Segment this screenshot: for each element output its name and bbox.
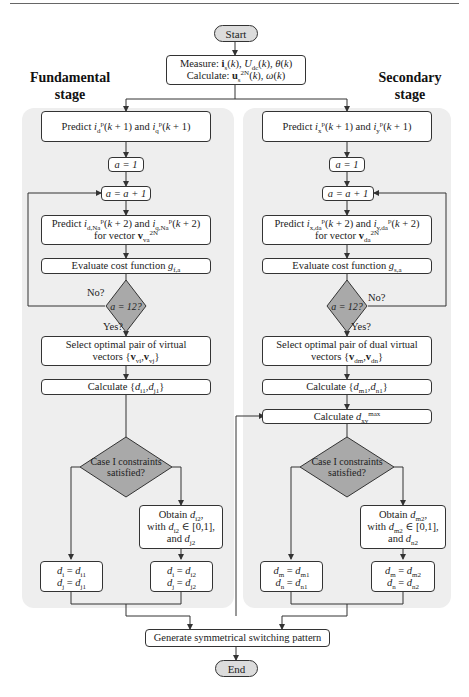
secondary-obtain-line2: with dm2 ∈ [0,1], <box>367 521 438 533</box>
generate-pattern-box: Generate symmetrical switching pattern <box>145 629 330 647</box>
fundamental-init-a-box: a = 1 <box>108 157 144 172</box>
fundamental-calc-text: Calculate {di1,dj1} <box>88 381 164 393</box>
fundamental-result1-box: di = di1 dj = dj1 <box>40 561 103 592</box>
fundamental-predict-k2-box: Predict id,Nap(k + 2) and iq,Nap(k + 2) … <box>41 215 211 245</box>
secondary-predict-k2-box: Predict ix,dap(k + 2) and iy,dap(k + 2) … <box>262 215 432 245</box>
fundamental-predict-k2-line2: for vector vva2N <box>94 230 158 242</box>
generate-pattern-text: Generate symmetrical switching pattern <box>154 632 322 644</box>
secondary-no-label: No? <box>368 292 386 303</box>
fundamental-increment-text: a = a + 1 <box>106 188 146 200</box>
secondary-evaluate-text: Evaluate cost function gs,a <box>292 260 401 272</box>
fundamental-loop-decision-label: a = 12? <box>110 301 142 312</box>
fundamental-loop-decision-text: a = 12? <box>106 299 146 313</box>
fundamental-no-label: No? <box>87 287 105 298</box>
fundamental-obtain-line1: Obtain di2, <box>159 509 204 521</box>
secondary-select-line2: vectors {vdm,vdn} <box>311 351 383 363</box>
fundamental-calc-box: Calculate {di1,dj1} <box>41 379 211 395</box>
fundamental-result1-line1: di = di1 <box>57 565 86 577</box>
fundamental-case-decision-text: Case I constraints satisfied? <box>84 456 168 478</box>
secondary-yes-label: Yes? <box>351 321 371 332</box>
secondary-increment-text: a = a + 1 <box>328 188 368 200</box>
secondary-predict-k1-text: Predict ixp(k + 1) and iyp(k + 1) <box>283 121 412 133</box>
secondary-result2-line1: dm = dm2 <box>385 565 421 577</box>
secondary-result1-line2: dn = dn1 <box>275 577 307 589</box>
secondary-case-decision-text: Case I constraints satisfied? <box>305 456 389 478</box>
secondary-select-box: Select optimal pair of dual virtual vect… <box>262 336 432 366</box>
fundamental-evaluate-text: Evaluate cost function gf,a <box>72 260 181 272</box>
secondary-result2-box: dm = dm2 dn = dn2 <box>371 561 435 592</box>
fundamental-select-line1: Select optimal pair of virtual <box>66 339 187 351</box>
secondary-obtain-line3: and dn2 <box>388 533 418 545</box>
secondary-result1-line1: dm = dm1 <box>273 565 309 577</box>
fundamental-case-line2: satisfied? <box>107 467 145 478</box>
secondary-obtain-box: Obtain dm2, with dm2 ∈ [0,1], and dn2 <box>360 505 446 549</box>
calculate-line: Calculate: us2N(k), ω(k) <box>187 70 285 82</box>
fundamental-yes-label: Yes? <box>103 321 123 332</box>
fundamental-predict-k2-line1: Predict id,Nap(k + 2) and iq,Nap(k + 2) <box>52 218 201 230</box>
fundamental-select-box: Select optimal pair of virtual vectors {… <box>41 336 211 366</box>
secondary-calc-max-text: Calculate dxymax <box>314 411 381 423</box>
fundamental-init-a-text: a = 1 <box>115 159 138 171</box>
secondary-loop-decision-text: a = 12? <box>327 299 367 313</box>
start-terminal: Start <box>214 25 258 42</box>
secondary-loop-decision-label: a = 12? <box>331 301 363 312</box>
fundamental-predict-k1-box: Predict idp(k + 1) and iqp(k + 1) <box>41 111 211 142</box>
fundamental-case-line1: Case I constraints <box>90 456 161 467</box>
fundamental-result1-line2: dj = dj1 <box>57 577 86 589</box>
secondary-evaluate-box: Evaluate cost function gs,a <box>262 258 432 274</box>
secondary-obtain-line1: Obtain dm2, <box>379 509 427 521</box>
calculate-prefix: Calculate: <box>187 70 232 81</box>
secondary-predict-k2-line2: for vector vda2N <box>315 230 379 242</box>
secondary-init-a-box: a = 1 <box>329 157 365 172</box>
measure-calculate-box: Measure: is(k), Udc(k), θ(k) Calculate: … <box>166 55 306 85</box>
secondary-result2-line2: dn = dn2 <box>387 577 419 589</box>
secondary-calc-text: Calculate {dm1,dn1} <box>306 381 387 393</box>
secondary-predict-k2-line1: Predict ix,dap(k + 2) and iy,dap(k + 2) <box>274 218 419 230</box>
fundamental-result2-line1: di = di2 <box>167 565 196 577</box>
secondary-select-line1: Select optimal pair of dual virtual <box>276 339 417 351</box>
measure-prefix: Measure: <box>180 58 222 69</box>
fundamental-select-line2: vectors {vvi,vvj} <box>92 351 159 363</box>
start-label: Start <box>226 28 247 40</box>
end-terminal: End <box>215 660 258 677</box>
fundamental-increment-box: a = a + 1 <box>101 186 151 201</box>
secondary-calc-max-box: Calculate dxymax <box>262 409 432 424</box>
fundamental-evaluate-box: Evaluate cost function gf,a <box>41 258 211 274</box>
secondary-result1-box: dm = dm1 dn = dn1 <box>260 561 323 592</box>
secondary-calc-box: Calculate {dm1,dn1} <box>262 379 432 395</box>
fundamental-obtain-line2: with di2 ∈ [0,1], <box>147 521 215 533</box>
secondary-init-a-text: a = 1 <box>336 159 359 171</box>
fundamental-result2-line2: dj = dj2 <box>167 577 196 589</box>
secondary-predict-k1-box: Predict ixp(k + 1) and iyp(k + 1) <box>262 111 432 142</box>
fundamental-obtain-line3: and dj2 <box>167 533 196 545</box>
secondary-increment-box: a = a + 1 <box>322 186 374 201</box>
fundamental-result2-box: di = di2 dj = dj2 <box>150 561 213 592</box>
secondary-case-line2: satisfied? <box>328 467 366 478</box>
fundamental-obtain-box: Obtain di2, with di2 ∈ [0,1], and dj2 <box>139 505 223 549</box>
fundamental-predict-k1-text: Predict idp(k + 1) and iqp(k + 1) <box>62 121 191 133</box>
measure-line: Measure: is(k), Udc(k), θ(k) <box>180 58 292 70</box>
secondary-case-line1: Case I constraints <box>311 456 382 467</box>
end-label: End <box>228 663 246 675</box>
